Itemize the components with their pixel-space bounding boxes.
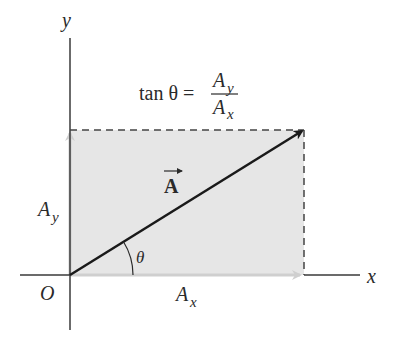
tangent-equation: tan θ = A y A x (139, 69, 238, 122)
vector-a-label: A (164, 175, 179, 197)
equation-denominator-sub: x (226, 106, 234, 122)
equation-numerator-main: A (211, 69, 226, 91)
equation-denominator-main: A (211, 96, 226, 118)
ay-label: A y (36, 198, 59, 225)
ax-label: A x (174, 283, 197, 310)
ay-label-main: A (36, 198, 51, 220)
theta-label: θ (136, 248, 144, 267)
x-axis-label: x (366, 265, 376, 287)
ax-label-sub: x (189, 294, 197, 310)
vector-components-diagram: y x O θ A A y A x tan θ = A y A x (0, 0, 401, 343)
ax-label-main: A (174, 283, 189, 305)
y-axis-label: y (60, 9, 71, 32)
ay-label-sub: y (50, 209, 59, 225)
equation-lhs: tan θ = (139, 82, 194, 104)
origin-label: O (40, 282, 54, 304)
